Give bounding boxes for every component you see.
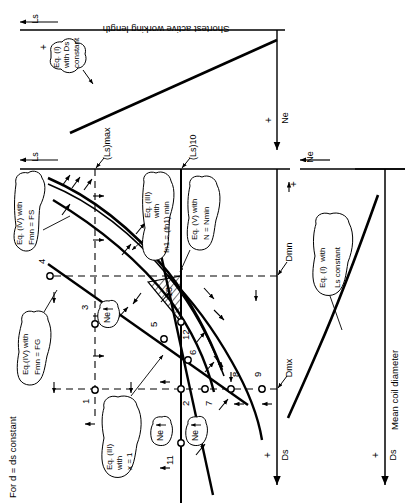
callout-c1-line1: Eq. (I)	[52, 46, 61, 68]
callout-c7-line2: with	[115, 456, 124, 471]
ne-bubble-2-label: Ne	[155, 430, 165, 441]
callout-c5-line2: Ls constant	[333, 246, 342, 288]
point-13-label: 13	[164, 287, 174, 297]
callout-c6-line1: Eq.(IV) with	[21, 334, 30, 375]
point-12-label: 12	[180, 329, 191, 340]
point-marker-2	[178, 386, 184, 392]
point-4-label: 4	[36, 259, 47, 264]
upper-plot-title: Shortest active working length	[103, 24, 230, 35]
gridline-ls-10-label: (Ls)10	[188, 134, 198, 160]
callout-c2-line2: Fmn = FS	[27, 210, 36, 245]
point-8-label: 8	[230, 372, 241, 377]
callout-c2-line1: Eq. (IV) with	[15, 201, 24, 245]
callout-c3-line1: Eq. (III)	[143, 191, 152, 218]
gridline-dmx-label: Dmx	[284, 358, 294, 377]
upper-plot-ne-plus: +	[263, 117, 274, 123]
note-d-constant: For d = ds constant	[7, 416, 18, 498]
point-marker-5	[161, 336, 167, 342]
main-plot-ne-plus: +	[288, 181, 299, 187]
point-1-label: 1	[80, 399, 91, 404]
callout-c7-line1: Eq. (III)	[105, 443, 114, 470]
point-marker-4	[47, 273, 53, 279]
callout-c4-line1: Eq. (V) with	[190, 199, 199, 240]
point-marker-7	[202, 386, 208, 392]
note-d-constant-text: For d = ds constant	[7, 416, 18, 498]
main-plot-ls-symbol: Ls	[30, 152, 40, 162]
point-2-label: 2	[180, 401, 191, 406]
callout-c6-line2: Fmn = FG	[33, 339, 42, 375]
lower-plot-ds-plus: +	[370, 452, 381, 458]
upper-plot-plus-sign: +	[38, 44, 49, 50]
point-5-label: 5	[148, 322, 159, 327]
point-marker-9	[259, 386, 265, 392]
point-marker-11	[178, 440, 184, 446]
callout-c3-line3: fn1 = (fn1) min	[162, 201, 171, 253]
ne-bubble-1-label: Ne	[102, 312, 112, 323]
point-marker-12	[178, 319, 184, 325]
point-3-label: 3	[79, 305, 90, 310]
upper-plot-ls-symbol: Ls	[30, 14, 40, 24]
callout-c3-line2: with	[152, 204, 161, 219]
point-marker-3	[92, 321, 98, 327]
callout-c4-line2: N = Nmin	[202, 206, 211, 240]
lower-plot-ds-symbol: Ds	[388, 449, 398, 460]
point-marker-1	[92, 387, 98, 393]
point-6-label: 6	[187, 350, 198, 355]
point-11-label: 11	[164, 455, 175, 465]
main-plot-ds-plus: +	[262, 452, 273, 458]
ne-bubble-3-label: Ne	[190, 430, 200, 441]
callout-c7-line3: x = 1	[125, 452, 134, 470]
callout-c5-line1: Eq. (I) with	[318, 248, 327, 288]
engineering-nomograph: For d = ds constant Ls + Shortest active…	[0, 0, 412, 503]
callout-c1-line2: with Ds	[62, 42, 71, 69]
lower-plot-title: Mean coil diameter	[389, 350, 400, 430]
figure-canvas: For d = ds constant Ls + Shortest active…	[0, 0, 412, 503]
point-9-label: 9	[252, 372, 263, 377]
callout-c1-line3: constant	[72, 37, 81, 68]
point-marker-8	[228, 386, 234, 392]
main-plot-ne-symbol: Ne	[305, 151, 315, 163]
point-marker-6	[185, 357, 191, 363]
gridline-ls-max-label: (Ls)max	[102, 127, 112, 160]
main-plot-ds-symbol: Ds	[280, 449, 290, 460]
upper-plot-ne-symbol: Ne	[280, 112, 290, 124]
point-7-label: 7	[203, 401, 214, 406]
gridline-dmn-label: Dmn	[284, 242, 294, 261]
